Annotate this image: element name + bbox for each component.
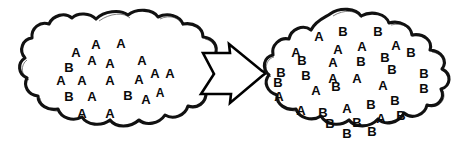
left-letter-a: A <box>105 73 115 88</box>
right-letter-b: B <box>396 108 405 123</box>
right-letter-a: A <box>274 89 284 104</box>
right-letter-b: B <box>356 54 365 69</box>
right-letter-a: A <box>311 83 321 98</box>
left-letter-a: A <box>87 53 97 68</box>
left-letter-a: A <box>116 36 126 51</box>
left-letter-a: A <box>150 66 160 81</box>
left-population-cloud[interactable]: AAABAAAAAAAAABABAAAA <box>20 10 220 126</box>
left-letter-a: A <box>141 92 151 107</box>
right-letter-b: B <box>352 115 361 130</box>
right-letter-a: A <box>357 39 367 54</box>
right-letter-a: A <box>376 111 386 126</box>
left-letter-a: A <box>77 73 87 88</box>
right-letter-a: A <box>328 55 338 70</box>
left-letter-a: A <box>156 86 165 100</box>
left-letter-a: A <box>137 53 147 68</box>
left-letter-b: B <box>64 89 73 104</box>
right-letter-b: B <box>331 79 340 94</box>
right-letter-b: B <box>297 53 306 68</box>
left-letter-a: A <box>87 89 97 104</box>
left-cloud-outline <box>20 10 220 126</box>
left-letter-a: A <box>105 56 115 71</box>
right-letter-b: B <box>338 24 347 39</box>
left-letter-a: A <box>77 106 87 121</box>
diagram-canvas: AAABAAAAAAAAABABAAAA ABBAAAABBABBBBBABBB… <box>0 0 472 157</box>
right-letter-a: A <box>352 71 362 86</box>
right-population-cloud[interactable]: ABBAAAABBABBBBBABBBAABAAABABBBBBABB <box>264 9 449 140</box>
left-letter-a: A <box>105 106 115 121</box>
right-letter-b: B <box>273 75 282 90</box>
right-letter-b: B <box>419 81 428 96</box>
right-letter-b: B <box>390 93 399 108</box>
right-letter-b: B <box>406 45 415 60</box>
right-letter-a: A <box>314 29 324 44</box>
left-letter-a: A <box>165 66 175 81</box>
right-letter-a: A <box>342 101 352 116</box>
left-letter-a: A <box>134 72 144 87</box>
diagram-svg: AAABAAAAAAAAABABAAAA ABBAAAABBABBBBBABBB… <box>0 0 472 157</box>
right-letter-a: A <box>378 78 388 93</box>
left-letter-a: A <box>56 73 66 88</box>
left-letter-a: A <box>71 45 81 60</box>
right-letter-b: B <box>367 124 376 139</box>
right-letter-b: B <box>366 97 375 112</box>
right-letter-b: B <box>325 116 334 131</box>
right-letter-b: B <box>342 126 351 141</box>
right-letter-b: B <box>387 62 396 77</box>
left-letter-b: B <box>64 60 73 75</box>
right-letter-b: B <box>301 68 310 83</box>
right-letter-b: B <box>373 24 382 39</box>
left-letter-a: A <box>91 37 101 52</box>
right-letter-a: A <box>296 103 306 118</box>
left-letter-b: B <box>123 88 132 103</box>
right-letter-a: A <box>391 38 401 53</box>
right-letter-b: B <box>419 66 428 81</box>
